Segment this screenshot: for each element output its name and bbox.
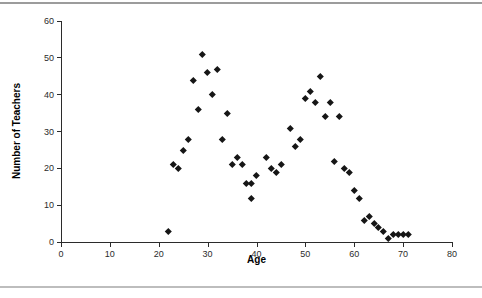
- y-tick-label: 10: [34, 200, 54, 210]
- x-tick-label: 60: [341, 249, 367, 259]
- x-tick-label: 70: [390, 249, 416, 259]
- x-tick-label: 20: [146, 249, 172, 259]
- y-axis-tick: [57, 168, 61, 169]
- x-axis-tick: [110, 243, 111, 247]
- y-tick-label: 20: [34, 163, 54, 173]
- x-axis-tick: [305, 243, 306, 247]
- x-tick-label: 40: [244, 249, 270, 259]
- x-tick-label: 80: [439, 249, 465, 259]
- y-tick-label: 50: [34, 53, 54, 63]
- bottom-rule: [0, 286, 482, 288]
- y-axis-tick: [57, 21, 61, 22]
- y-axis-tick: [57, 205, 61, 206]
- x-axis-tick: [403, 243, 404, 247]
- plot-area: [61, 21, 453, 243]
- y-axis-title: Number of Teachers: [11, 83, 22, 179]
- x-axis-tick: [159, 243, 160, 247]
- y-axis-tick: [57, 94, 61, 95]
- x-axis-tick: [257, 243, 258, 247]
- x-axis-tick: [61, 243, 62, 247]
- y-tick-label: 30: [34, 127, 54, 137]
- x-tick-label: 10: [97, 249, 123, 259]
- x-axis-tick: [208, 243, 209, 247]
- x-tick-label: 30: [195, 249, 221, 259]
- y-axis-tick: [57, 57, 61, 58]
- x-tick-label: 0: [48, 249, 74, 259]
- y-tick-label: 60: [34, 16, 54, 26]
- scatter-plot-figure: Number of Teachers Age 01020304050600102…: [0, 0, 482, 298]
- y-axis-tick: [57, 131, 61, 132]
- x-axis-tick: [452, 243, 453, 247]
- x-axis-tick: [354, 243, 355, 247]
- y-tick-label: 0: [34, 237, 54, 247]
- x-tick-label: 50: [292, 249, 318, 259]
- y-tick-label: 40: [34, 90, 54, 100]
- top-rule: [0, 2, 482, 4]
